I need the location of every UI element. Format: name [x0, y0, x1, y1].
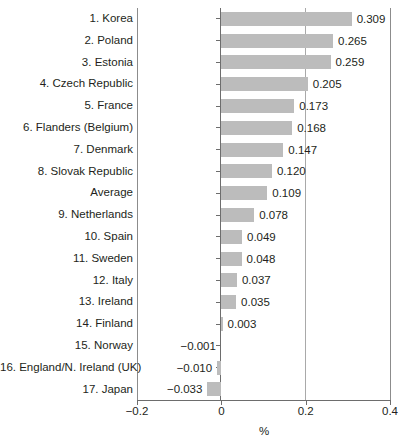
value-label: 0.205 — [313, 77, 342, 91]
value-label: 0.109 — [272, 186, 301, 200]
bar-row: 17. Japan−0.033 — [0, 379, 404, 401]
value-label: 0.035 — [241, 295, 270, 309]
category-label: 1. Korea — [0, 8, 133, 30]
category-label: 4. Czech Republic — [0, 73, 133, 95]
bar — [217, 361, 221, 375]
y-axis-tick — [216, 280, 221, 281]
bar-row: 2. Poland0.265 — [0, 30, 404, 52]
bar — [221, 34, 333, 48]
bar-chart: 1. Korea0.3092. Poland0.2653. Estonia0.2… — [0, 0, 404, 448]
value-label: 0.120 — [277, 164, 306, 178]
bar-row: 13. Ireland0.035 — [0, 291, 404, 313]
y-axis-tick — [216, 84, 221, 85]
category-label: 9. Netherlands — [0, 204, 133, 226]
x-axis-tick-label: −0.2 — [107, 405, 167, 417]
bar-row: 14. Finland0.003 — [0, 313, 404, 335]
bar-row: 8. Slovak Republic0.120 — [0, 161, 404, 183]
value-label: 0.147 — [288, 143, 317, 157]
y-axis-tick — [216, 62, 221, 63]
category-label: 15. Norway — [0, 335, 133, 357]
value-label: 0.168 — [297, 121, 326, 135]
bar-row: 1. Korea0.309 — [0, 8, 404, 30]
y-axis-tick — [216, 149, 221, 150]
category-label: 11. Sweden — [0, 248, 133, 270]
bar-row: 6. Flanders (Belgium)0.168 — [0, 117, 404, 139]
y-axis-tick — [216, 258, 221, 259]
bar — [207, 382, 221, 396]
category-label: 6. Flanders (Belgium) — [0, 117, 133, 139]
category-label: 17. Japan — [0, 379, 133, 401]
category-label: 13. Ireland — [0, 291, 133, 313]
y-axis-tick — [216, 40, 221, 41]
category-label: 3. Estonia — [0, 52, 133, 74]
x-axis-tick-label: 0.2 — [276, 405, 336, 417]
bar-row: 9. Netherlands0.078 — [0, 204, 404, 226]
category-label: 5. France — [0, 95, 133, 117]
value-label: 0.048 — [247, 252, 276, 266]
value-label: 0.049 — [247, 230, 276, 244]
bar-row: 16. England/N. Ireland (UK)−0.010 — [0, 357, 404, 379]
y-axis-tick — [216, 345, 221, 346]
bar-row: 11. Sweden0.048 — [0, 248, 404, 270]
bar — [221, 77, 307, 91]
value-label: −0.033 — [167, 382, 203, 396]
bar-row: 10. Spain0.049 — [0, 226, 404, 248]
y-axis-tick — [216, 193, 221, 194]
bar — [221, 230, 242, 244]
y-axis-tick — [216, 106, 221, 107]
category-label: 2. Poland — [0, 30, 133, 52]
bar — [221, 295, 236, 309]
value-label: 0.259 — [336, 55, 365, 69]
y-axis-tick — [216, 18, 221, 19]
bar-row: 12. Italy0.037 — [0, 270, 404, 292]
y-axis-tick — [216, 236, 221, 237]
value-label: 0.309 — [357, 12, 386, 26]
bar — [221, 55, 330, 69]
category-label: 7. Denmark — [0, 139, 133, 161]
category-label: 16. England/N. Ireland (UK) — [0, 357, 133, 379]
bar-row: Average0.109 — [0, 182, 404, 204]
bar — [221, 121, 292, 135]
x-axis-line — [137, 400, 391, 401]
bar-row: 15. Norway−0.001 — [0, 335, 404, 357]
y-axis-tick — [216, 127, 221, 128]
bar — [221, 208, 254, 222]
x-axis-tick-label: 0 — [191, 405, 251, 417]
value-label: 0.078 — [259, 208, 288, 222]
category-label: 8. Slovak Republic — [0, 161, 133, 183]
bar-row: 4. Czech Republic0.205 — [0, 73, 404, 95]
x-axis-title: % — [137, 425, 391, 437]
value-label: 0.265 — [338, 34, 367, 48]
category-label: 14. Finland — [0, 313, 133, 335]
bar-row: 7. Denmark0.147 — [0, 139, 404, 161]
value-label: −0.001 — [180, 339, 216, 353]
bar — [221, 12, 351, 26]
value-label: 0.037 — [242, 273, 271, 287]
category-label: 12. Italy — [0, 270, 133, 292]
category-label: 10. Spain — [0, 226, 133, 248]
bar — [221, 317, 222, 331]
bar — [221, 186, 267, 200]
x-axis-tick-label: 0.4 — [360, 405, 404, 417]
bar-row: 5. France0.173 — [0, 95, 404, 117]
bar — [221, 143, 283, 157]
bar — [221, 99, 294, 113]
y-axis-tick — [216, 302, 221, 303]
value-label: 0.173 — [299, 99, 328, 113]
value-label: −0.010 — [177, 361, 213, 375]
bar — [221, 164, 272, 178]
y-axis-tick — [216, 171, 221, 172]
category-label: Average — [0, 182, 133, 204]
y-axis-tick — [216, 324, 221, 325]
bar — [221, 273, 237, 287]
value-label: 0.003 — [228, 317, 257, 331]
y-axis-tick — [216, 215, 221, 216]
bar — [221, 252, 241, 266]
bar-row: 3. Estonia0.259 — [0, 52, 404, 74]
